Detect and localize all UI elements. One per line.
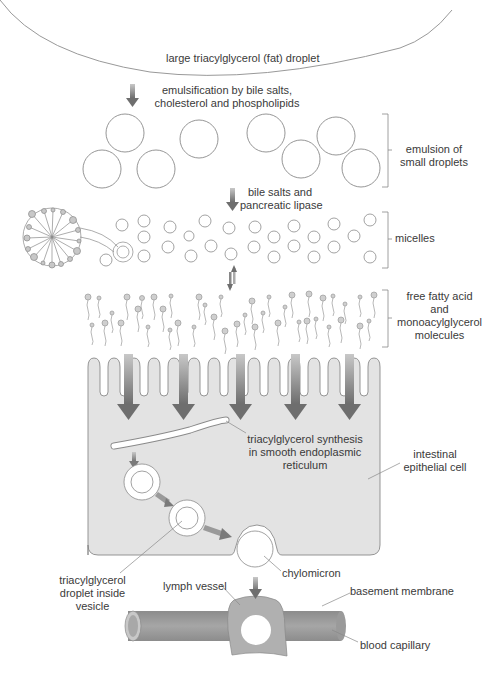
fatty-acids-bracket (382, 290, 392, 347)
label-emulsification-line1: emulsification by bile salts, (142, 84, 312, 97)
label-chylomicron: chylomicron (282, 567, 341, 580)
label-emulsification: emulsification by bile salts, cholestero… (142, 84, 312, 110)
label-basement-membrane: basement membrane (350, 585, 454, 598)
equilibrium-arrows-icon (227, 265, 237, 291)
lipase-arrow-icon (226, 188, 239, 211)
micelles (100, 214, 376, 266)
label-ffa-line3: monoacylglycerol (392, 316, 487, 329)
label-blood-capillary: blood capillary (360, 639, 430, 652)
label-synthesis-line1: triacylglycerol synthesis (240, 433, 370, 446)
label-vesicle-line1: triacylglycerol (55, 574, 130, 587)
emulsion-bracket (382, 114, 392, 187)
label-cell-line2: epithelial cell (395, 461, 475, 474)
label-synthesis-line3: reticulum (240, 459, 370, 472)
emulsion-droplets (83, 114, 380, 188)
label-emulsification-line2: cholesterol and phospholipids (142, 97, 312, 110)
label-emulsion-line2: small droplets (394, 156, 474, 169)
label-lipase-line1: bile salts and (240, 186, 320, 199)
emulsification-arrow-icon (126, 84, 139, 107)
label-er-synthesis: triacylglycerol synthesis in smooth endo… (240, 433, 370, 472)
fatty-acid-molecules (85, 291, 377, 354)
label-epithelial-cell: intestinal epithelial cell (395, 448, 475, 474)
label-lipase-line2: pancreatic lipase (240, 199, 320, 212)
chylomicron-leader (264, 556, 281, 571)
chylomicron (237, 531, 273, 567)
label-emulsion: emulsion of small droplets (394, 143, 474, 169)
label-cell-line1: intestinal (395, 448, 475, 461)
label-vesicle-line3: vesicle (55, 600, 130, 613)
label-synthesis-line2: in smooth endoplasmic (240, 446, 370, 459)
label-ffa-line2: and (392, 303, 487, 316)
label-emulsion-line1: emulsion of (394, 143, 474, 156)
label-ffa-line1: free fatty acid (392, 290, 487, 303)
label-lipase: bile salts and pancreatic lipase (240, 186, 320, 212)
label-fat-droplet: large triacylglycerol (fat) droplet (166, 52, 319, 65)
label-micelles: micelles (395, 232, 435, 245)
basement-leader (322, 593, 350, 606)
label-vesicle-line2: droplet inside (55, 587, 130, 600)
label-ffa-line4: molecules (392, 329, 487, 342)
label-lymph-vessel: lymph vessel (163, 580, 227, 593)
micelles-bracket (382, 212, 392, 268)
label-vesicle: triacylglycerol droplet inside vesicle (55, 574, 130, 613)
lymph-arrow-icon (249, 577, 262, 599)
label-free-fatty-acids: free fatty acid and monoacylglycerol mol… (392, 290, 487, 342)
micelle-detail (23, 208, 133, 268)
